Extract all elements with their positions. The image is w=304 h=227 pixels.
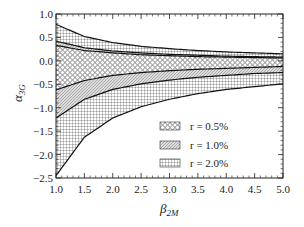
legend-label-2.0: r = 2.0%	[190, 157, 228, 169]
y-tick-label: −1.5	[33, 125, 53, 137]
legend-label-0.5: r = 0.5%	[190, 120, 228, 132]
x-tick-label: 2.0	[106, 183, 120, 195]
legend-label-1.0: r = 1.0%	[190, 139, 228, 151]
x-tick-label: 3.0	[163, 183, 177, 195]
legend-swatch-0.5	[160, 122, 180, 130]
chart: 1.01.52.02.53.03.54.04.55.0 1.00.50.0−0.…	[0, 0, 304, 227]
plot-area	[56, 24, 283, 175]
legend: r = 0.5% r = 1.0% r = 2.0%	[160, 120, 228, 169]
x-tick-label: 3.5	[191, 183, 205, 195]
x-axis-label: β2M	[159, 201, 179, 218]
y-tick-label: 0.5	[39, 31, 53, 43]
y-tick-label: −2.0	[33, 149, 53, 161]
y-tick-label: 0.0	[39, 55, 53, 67]
y-tick-label: −0.5	[33, 78, 53, 90]
y-axis-label: α3G	[10, 84, 27, 102]
x-tick-label: 5.0	[276, 183, 290, 195]
x-tick-label: 1.0	[49, 183, 63, 195]
x-tick-label: 4.0	[219, 183, 233, 195]
legend-swatch-2.0	[160, 159, 180, 167]
x-tick-label: 2.5	[134, 183, 148, 195]
y-tick-label: −1.0	[33, 102, 53, 114]
x-tick-label: 1.5	[78, 183, 92, 195]
x-tick-label: 4.5	[248, 183, 262, 195]
band-2.0	[56, 24, 283, 175]
y-tick-label: −2.5	[33, 172, 53, 184]
legend-swatch-1.0	[160, 141, 180, 149]
y-tick-label: 1.0	[39, 8, 53, 20]
